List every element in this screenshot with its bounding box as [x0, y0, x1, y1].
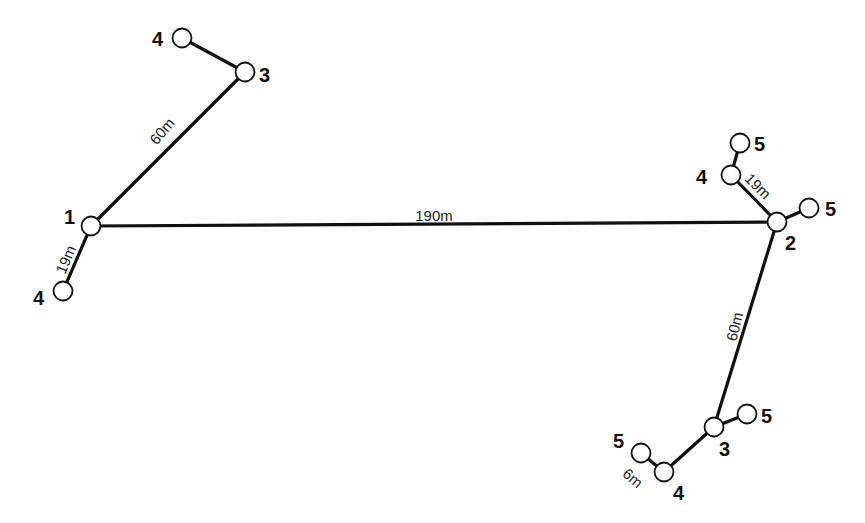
edge-n3a-n4b [182, 38, 245, 72]
node-label: 4 [152, 28, 164, 50]
node-label: 1 [64, 206, 75, 228]
node-label: 5 [613, 430, 624, 452]
edge-labels-layer: 190m60m19m19m60m6m [52, 114, 774, 491]
node-label: 3 [719, 438, 730, 460]
node-n4d [655, 463, 674, 482]
node-label: 4 [33, 287, 45, 309]
edge-length-label: 6m [620, 465, 647, 491]
edge-n1-n3a [91, 72, 245, 226]
node-label: 5 [761, 405, 772, 427]
node-n1 [82, 217, 101, 236]
node-n4c [722, 166, 741, 185]
node-n4b [173, 29, 192, 48]
edge-length-label: 190m [415, 207, 453, 224]
node-n5b [800, 199, 819, 218]
node-label: 5 [754, 133, 765, 155]
node-n5a [731, 134, 750, 153]
node-n3a [236, 63, 255, 82]
node-label: 4 [696, 166, 708, 188]
edges-layer [63, 38, 809, 472]
node-label: 5 [825, 198, 836, 220]
node-n4a [54, 282, 73, 301]
node-n5c [738, 405, 757, 424]
node-label: 2 [785, 232, 796, 254]
node-n2 [768, 213, 787, 232]
edge-length-label: 19m [742, 170, 775, 203]
node-label: 4 [673, 482, 685, 504]
node-n3b [705, 418, 724, 437]
node-label: 3 [259, 64, 270, 86]
node-n5d [632, 444, 651, 463]
network-diagram: 190m60m19m19m60m6m 143424553545 [0, 0, 865, 523]
edge-n2-n3b [714, 222, 777, 427]
nodes-layer [54, 29, 819, 482]
